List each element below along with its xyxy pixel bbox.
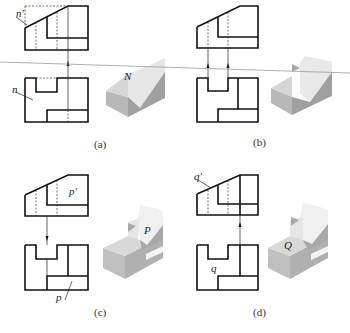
panel-b-isometric	[271, 56, 332, 115]
caption-b: (b)	[253, 136, 266, 149]
panel-c-isometric	[103, 205, 163, 279]
label-n-prime: n'	[16, 7, 25, 19]
label-Q: Q	[284, 239, 292, 251]
arrow-up-icon	[67, 61, 70, 66]
panel-b: (b)	[197, 6, 332, 149]
label-q-prime: q'	[194, 170, 203, 182]
arrow-down-icon	[46, 236, 49, 241]
arrow-up-icon	[227, 63, 230, 68]
label-p: p	[55, 291, 62, 303]
arrow-up-icon	[207, 63, 210, 68]
label-P: P	[143, 224, 151, 236]
label-N: N	[123, 70, 132, 82]
panel-a-front-view	[16, 6, 88, 50]
panel-b-top-view	[197, 78, 258, 122]
caption-c: (c)	[94, 306, 107, 319]
panel-d-top-view	[197, 245, 258, 290]
panel-d-isometric	[268, 203, 328, 279]
panel-c-front-view	[25, 175, 88, 216]
panel-a: n' n N (a)	[12, 6, 165, 151]
label-p-prime: p'	[68, 185, 78, 197]
panel-b-front-view	[197, 6, 258, 48]
label-q: q	[211, 262, 217, 274]
label-n: n	[12, 83, 18, 95]
arrow-up-icon	[239, 222, 242, 227]
orthographic-projection-figure: n' n N (a) (b)	[0, 0, 350, 333]
caption-d: (d)	[253, 306, 266, 319]
notch-indicator	[292, 64, 300, 72]
panel-d: q' q Q (d)	[194, 170, 328, 319]
panel-c: p' p P (c)	[25, 175, 163, 319]
caption-a: (a)	[94, 138, 107, 151]
panel-a-top-view	[16, 78, 88, 122]
panel-d-front-view	[197, 175, 258, 215]
